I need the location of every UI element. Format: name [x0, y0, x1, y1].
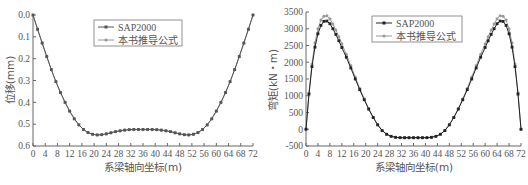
square-marker-icon	[105, 26, 108, 29]
x-tick-label: 20	[89, 149, 99, 159]
legend-label-formula: 本书推导公式	[118, 34, 178, 46]
x-tick-label: 68	[504, 149, 514, 159]
y-tick-label: 0	[298, 125, 303, 135]
y-tick-label: 1500	[284, 74, 303, 84]
y-axis-title: 位移(mm)	[4, 56, 16, 105]
displacement-chart: 0.00.10.20.30.40.50.6 048121620242832364…	[0, 0, 264, 185]
x-tick-label: 52	[187, 149, 197, 159]
x-tick-label: 24	[373, 149, 383, 159]
y-tick-label: 3000	[284, 24, 303, 34]
y-tick-label: 0.5	[18, 119, 30, 129]
x-axis: 04812162024283236404448525660646872	[304, 143, 526, 159]
x-tick-label: 64	[224, 149, 234, 159]
x-tick-label: 68	[236, 149, 246, 159]
x-tick-label: 36	[409, 149, 419, 159]
x-tick-label: 52	[457, 149, 467, 159]
x-tick-label: 32	[397, 149, 407, 159]
x-tick-label: 28	[114, 149, 124, 159]
x-tick-label: 64	[492, 149, 502, 159]
y-tick-label: 0.0	[18, 10, 30, 20]
y-tick-label: 0.1	[18, 32, 30, 42]
x-tick-label: 12	[337, 149, 347, 159]
x-tick-label: 40	[150, 149, 160, 159]
x-tick-label: 56	[468, 149, 478, 159]
y-tick-label: 3500	[284, 7, 303, 17]
x-tick-label: 16	[349, 149, 359, 159]
legend-label-sap2000: SAP2000	[118, 22, 156, 33]
y-tick-label: 500	[289, 108, 304, 118]
x-tick-label: 40	[421, 149, 431, 159]
x-tick-label: 36	[138, 149, 148, 159]
displacement-chart-svg: 0.00.10.20.30.40.50.6 048121620242832364…	[0, 0, 264, 185]
legend-label-formula: 本书推导公式	[396, 30, 456, 42]
x-tick-label: 48	[445, 149, 455, 159]
x-tick-label: 28	[385, 149, 395, 159]
x-tick-label: 8	[328, 149, 333, 159]
x-tick-label: 60	[212, 149, 222, 159]
y-tick-label: 0.6	[18, 141, 30, 151]
y-tick-label: 2500	[284, 41, 303, 51]
x-tick-label: 12	[65, 149, 75, 159]
y-axis: 0.00.10.20.30.40.50.6	[18, 10, 36, 151]
y-tick-label: 2000	[284, 58, 303, 68]
x-tick-label: 16	[77, 149, 87, 159]
legend-label-sap2000: SAP2000	[396, 18, 434, 29]
x-tick-label: 32	[126, 149, 136, 159]
y-tick-label: 1000	[284, 91, 303, 101]
x-tick-label: 60	[480, 149, 490, 159]
x-tick-label: 72	[248, 149, 258, 159]
x-tick-label: 44	[163, 149, 173, 159]
bending-moment-chart-svg: -5000500100015002000250030003500 0481216…	[264, 0, 528, 185]
circle-marker-icon	[382, 34, 385, 37]
circle-marker-icon	[104, 38, 107, 41]
x-axis-title: 系梁轴向坐标(m)	[104, 161, 182, 173]
legend: SAP2000 本书推导公式	[94, 20, 182, 46]
square-marker-icon	[383, 22, 386, 25]
y-tick-label: 0.3	[18, 76, 30, 86]
x-tick-label: 0	[304, 149, 309, 159]
x-tick-label: 4	[43, 149, 48, 159]
x-tick-label: 48	[175, 149, 185, 159]
x-axis: 04812162024283236404448525660646872	[31, 143, 258, 159]
x-tick-label: 4	[316, 149, 321, 159]
x-axis-title: 系梁轴向坐标(m)	[375, 161, 453, 173]
y-tick-label: 0.4	[18, 98, 30, 108]
legend: SAP2000 本书推导公式	[372, 16, 462, 42]
x-tick-label: 0	[31, 149, 36, 159]
y-axis-title: 弯矩(kN・m)	[267, 49, 279, 111]
y-tick-label: 0.2	[18, 54, 30, 64]
y-tick-label: -500	[286, 141, 304, 151]
x-tick-label: 20	[361, 149, 371, 159]
x-tick-label: 24	[102, 149, 112, 159]
x-tick-label: 8	[55, 149, 60, 159]
x-tick-label: 44	[433, 149, 443, 159]
x-tick-label: 56	[199, 149, 209, 159]
x-tick-label: 72	[516, 149, 526, 159]
bending-moment-chart: -5000500100015002000250030003500 0481216…	[264, 0, 528, 185]
